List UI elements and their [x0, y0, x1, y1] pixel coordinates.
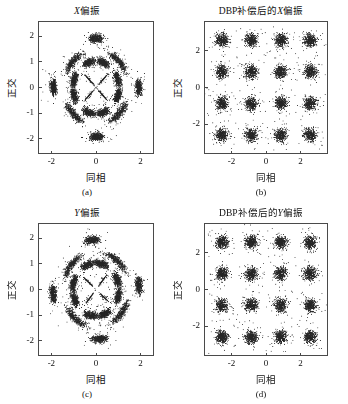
- panel-c-ytick-label: 2: [14, 233, 34, 242]
- panel-d-xtick-mark: [300, 353, 301, 357]
- panel-d-xtick-label: -2: [218, 359, 246, 368]
- panel-d-ytick-mark: [204, 326, 208, 327]
- panel-b-xtick-mark: [266, 151, 267, 155]
- panel-d-caption: (d): [174, 389, 348, 399]
- panel-c-scatter: [39, 224, 153, 355]
- panel-b-title-suffix: 偏振: [283, 6, 303, 16]
- panel-c-xtick-mark: [140, 353, 141, 357]
- panel-c-plot-area: [38, 223, 154, 356]
- panel-b-caption: (b): [174, 187, 348, 197]
- panel-c-xlabel: 同相: [38, 375, 154, 386]
- panel-c-ytick-mark: [38, 340, 42, 341]
- figure-constellation-diagrams: X偏振 同相 正交 (a) -202210-1-2 DBP补偿后的X偏振 同相 …: [0, 0, 348, 404]
- panel-b-ytick-mark: [204, 124, 208, 125]
- panel-c-ytick-mark: [38, 289, 42, 290]
- panel-a-ytick-mark: [38, 138, 42, 139]
- panel-b: DBP补偿后的X偏振 同相 正交 (b) -20220-2: [174, 0, 348, 202]
- panel-a-plot-area: [38, 21, 154, 154]
- panel-d-ytick-label: 0: [180, 285, 200, 294]
- panel-b-ytick-label: -2: [180, 119, 200, 128]
- panel-a-xtick-label: 0: [82, 157, 110, 166]
- panel-a-xtick-mark: [96, 151, 97, 155]
- panel-d-plot-area: [204, 223, 328, 356]
- panel-d-title-suffix: 偏振: [283, 208, 303, 218]
- panel-a-title-suffix: 偏振: [80, 6, 100, 16]
- panel-c-ytick-mark: [38, 238, 42, 239]
- panel-a-ytick-mark: [38, 36, 42, 37]
- panel-c: Y偏振 同相 正交 (c) -202210-1-2: [0, 202, 174, 404]
- panel-a-xtick-mark: [51, 151, 52, 155]
- panel-c-caption: (c): [0, 389, 174, 399]
- panel-b-scatter: [205, 22, 327, 153]
- panel-d-title: DBP补偿后的Y偏振: [174, 208, 348, 219]
- panel-c-ytick-label: -2: [14, 336, 34, 345]
- panel-a-scatter: [39, 22, 153, 153]
- panel-a-ytick-mark: [38, 87, 42, 88]
- panel-a-xtick-label: 2: [127, 157, 155, 166]
- panel-d-xtick-label: 2: [286, 359, 314, 368]
- panel-b-ytick-label: 2: [180, 46, 200, 55]
- panel-a-ytick-label: 0: [14, 83, 34, 92]
- panel-a-caption: (a): [0, 187, 174, 197]
- panel-c-xtick-label: -2: [37, 359, 65, 368]
- panel-d-xtick-mark: [266, 353, 267, 357]
- panel-c-title-suffix: 偏振: [80, 208, 100, 218]
- panel-c-ytick-label: 0: [14, 285, 34, 294]
- panel-c-ytick-label: -1: [14, 310, 34, 319]
- panel-b-xlabel: 同相: [204, 173, 328, 184]
- panel-d-xtick-label: 0: [252, 359, 280, 368]
- panel-a-xlabel: 同相: [38, 173, 154, 184]
- panel-d-ytick-label: -2: [180, 321, 200, 330]
- panel-b-xtick-label: -2: [218, 157, 246, 166]
- panel-c-ytick-mark: [38, 315, 42, 316]
- panel-d: DBP补偿后的Y偏振 同相 正交 (d) -20220-2: [174, 202, 348, 404]
- panel-d-xlabel: 同相: [204, 375, 328, 386]
- panel-d-ytick-mark: [204, 289, 208, 290]
- panel-a-xtick-mark: [140, 151, 141, 155]
- panel-c-xtick-label: 0: [82, 359, 110, 368]
- panel-a-ytick-mark: [38, 113, 42, 114]
- panel-a-ytick-mark: [38, 61, 42, 62]
- panel-b-ytick-label: 0: [180, 83, 200, 92]
- panel-c-ytick-mark: [38, 263, 42, 264]
- panel-b-title: DBP补偿后的X偏振: [174, 6, 348, 17]
- panel-b-xtick-label: 2: [286, 157, 314, 166]
- panel-b-ytick-mark: [204, 87, 208, 88]
- panel-c-xtick-mark: [96, 353, 97, 357]
- panel-c-xtick-mark: [51, 353, 52, 357]
- panel-d-title-prefix: DBP补偿后的: [219, 208, 277, 218]
- panel-a-ytick-label: -1: [14, 108, 34, 117]
- panel-a-ytick-label: 2: [14, 31, 34, 40]
- panel-c-title: Y偏振: [0, 208, 174, 219]
- panel-b-xtick-label: 0: [252, 157, 280, 166]
- panel-a-ytick-label: 1: [14, 57, 34, 66]
- panel-b-plot-area: [204, 21, 328, 154]
- panel-a: X偏振 同相 正交 (a) -202210-1-2: [0, 0, 174, 202]
- panel-d-xtick-mark: [231, 353, 232, 357]
- panel-a-xtick-label: -2: [37, 157, 65, 166]
- panel-d-ytick-mark: [204, 252, 208, 253]
- panel-d-ytick-label: 2: [180, 248, 200, 257]
- panel-c-xtick-label: 2: [127, 359, 155, 368]
- panel-a-ytick-label: -2: [14, 134, 34, 143]
- panel-d-scatter: [205, 224, 327, 355]
- panel-a-title: X偏振: [0, 6, 174, 17]
- panel-c-ytick-label: 1: [14, 259, 34, 268]
- panel-b-xtick-mark: [300, 151, 301, 155]
- panel-b-title-prefix: DBP补偿后的: [219, 6, 277, 16]
- panel-b-xtick-mark: [231, 151, 232, 155]
- panel-b-ytick-mark: [204, 50, 208, 51]
